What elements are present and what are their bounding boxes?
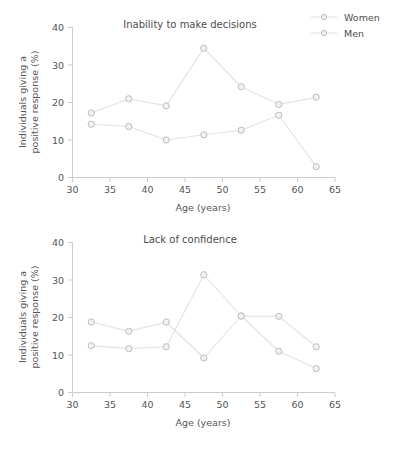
data-point-marker	[313, 94, 319, 100]
y-axis-title-line2: positive response (%)	[29, 51, 40, 154]
y-tick-label: 10	[52, 350, 64, 361]
x-tick-label: 35	[104, 399, 116, 410]
data-point-marker	[163, 319, 169, 325]
chart-panel-lack-of-confidence: 0 10 20 30 40 30 35 40 45 50 55 60 65 Ag…	[0, 225, 408, 449]
series-markers-women-top	[88, 45, 319, 116]
plot-area-top	[88, 45, 319, 170]
chart-svg-top: 0 10 20 30 40 30 35 40 45 50 55 60 65 Ag…	[0, 0, 408, 224]
series-line-women-top	[91, 48, 316, 113]
data-point-marker	[201, 272, 207, 278]
y-ticks-bottom	[68, 243, 73, 393]
y-tick-label: 40	[52, 237, 64, 248]
x-tick-label: 55	[254, 184, 266, 195]
data-point-marker	[313, 164, 319, 170]
data-point-marker	[88, 110, 94, 116]
data-point-marker	[276, 101, 282, 107]
series-line-men-top	[91, 115, 316, 166]
x-axis-title: Age (years)	[176, 417, 231, 428]
data-point-marker	[88, 319, 94, 325]
x-tick-label: 60	[291, 399, 303, 410]
y-axis-title-line1: Individuals giving a	[17, 56, 28, 148]
plot-area-bottom	[88, 272, 319, 372]
data-point-marker	[238, 84, 244, 90]
data-point-marker	[238, 313, 244, 319]
chart-title-bottom: Lack of confidence	[143, 234, 237, 245]
data-point-marker	[88, 343, 94, 349]
data-point-marker	[313, 365, 319, 371]
data-point-marker	[126, 123, 132, 129]
x-tick-label: 50	[216, 184, 228, 195]
data-point-marker	[276, 112, 282, 118]
y-tick-label: 20	[52, 312, 64, 323]
x-tick-label: 30	[66, 184, 78, 195]
data-point-marker	[88, 121, 94, 127]
y-tick-labels-bottom: 0 10 20 30 40	[52, 237, 64, 398]
y-axis-title-line1: Individuals giving a	[17, 271, 28, 363]
legend-marker-women-icon	[321, 14, 326, 19]
y-tick-label: 0	[58, 387, 64, 398]
y-tick-label: 40	[52, 22, 64, 33]
x-tick-label: 50	[216, 399, 228, 410]
data-point-marker	[163, 344, 169, 350]
legend: Women Men	[311, 12, 380, 39]
x-tick-labels-top: 30 35 40 45 50 55 60 65	[66, 184, 341, 195]
data-point-marker	[238, 127, 244, 133]
x-tick-label: 30	[66, 399, 78, 410]
x-tick-labels-bottom: 30 35 40 45 50 55 60 65	[66, 399, 341, 410]
y-tick-label: 20	[52, 97, 64, 108]
legend-label-women: Women	[344, 12, 380, 23]
x-tick-label: 45	[179, 184, 191, 195]
x-ticks-bottom	[73, 393, 336, 398]
x-tick-label: 40	[141, 399, 153, 410]
data-point-marker	[201, 132, 207, 138]
legend-marker-men-icon	[321, 30, 326, 35]
data-point-marker	[276, 348, 282, 354]
chart-title-top: Inability to make decisions	[123, 19, 256, 30]
figure-two-line-charts: 0 10 20 30 40 30 35 40 45 50 55 60 65 Ag…	[0, 0, 408, 449]
data-point-marker	[126, 96, 132, 102]
data-point-marker	[126, 328, 132, 334]
x-axis-title: Age (years)	[176, 202, 231, 213]
chart-panel-inability-to-make-decisions: 0 10 20 30 40 30 35 40 45 50 55 60 65 Ag…	[0, 0, 408, 224]
data-point-marker	[163, 137, 169, 143]
data-point-marker	[313, 344, 319, 350]
data-point-marker	[201, 45, 207, 51]
axes-bottom	[73, 242, 336, 393]
y-axis-title-line2: positive response (%)	[29, 266, 40, 369]
series-line-women-bottom	[91, 316, 316, 358]
x-tick-label: 60	[291, 184, 303, 195]
x-tick-label: 65	[329, 399, 341, 410]
data-point-marker	[163, 103, 169, 109]
y-tick-label: 30	[52, 275, 64, 286]
chart-svg-bottom: 0 10 20 30 40 30 35 40 45 50 55 60 65 Ag…	[0, 225, 408, 449]
data-point-marker	[126, 346, 132, 352]
data-point-marker	[201, 355, 207, 361]
x-tick-label: 45	[179, 399, 191, 410]
legend-label-men: Men	[344, 28, 364, 39]
data-point-marker	[276, 313, 282, 319]
x-tick-label: 35	[104, 184, 116, 195]
x-tick-label: 65	[329, 184, 341, 195]
y-tick-label: 30	[52, 60, 64, 71]
y-tick-label: 10	[52, 135, 64, 146]
x-tick-label: 40	[141, 184, 153, 195]
x-ticks-top	[73, 178, 336, 183]
y-ticks-top	[68, 28, 73, 178]
x-tick-label: 55	[254, 399, 266, 410]
series-markers-men-top	[88, 112, 319, 170]
y-tick-label: 0	[58, 172, 64, 183]
y-tick-labels-top: 0 10 20 30 40	[52, 22, 64, 183]
